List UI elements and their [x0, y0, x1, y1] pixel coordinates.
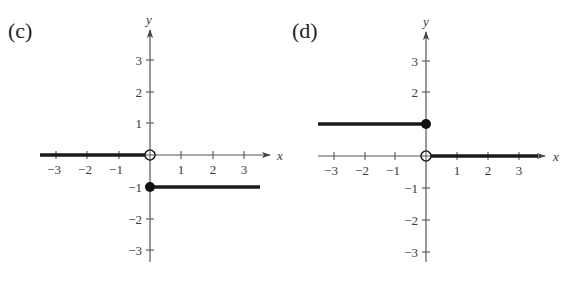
x-tick-labels-d: −3 −2 −1 1 2 3: [324, 163, 522, 178]
svg-text:−1: −1: [404, 181, 418, 196]
x-axis-name-c: x: [276, 148, 283, 163]
svg-text:−3: −3: [404, 245, 418, 260]
svg-text:1: 1: [178, 162, 185, 177]
svg-text:−2: −2: [78, 162, 92, 177]
svg-text:2: 2: [210, 162, 217, 177]
svg-text:−2: −2: [355, 163, 369, 178]
svg-text:3: 3: [136, 53, 143, 68]
svg-text:1: 1: [136, 116, 143, 131]
graph-d: (d) x y −3 −2 −1 1 2 3: [292, 14, 559, 262]
closed-dot-0-m1-c: [145, 182, 155, 192]
x-axis-name-d: x: [552, 149, 559, 164]
svg-text:−1: −1: [109, 162, 123, 177]
svg-text:−3: −3: [128, 243, 142, 258]
y-axis-name-d: y: [421, 14, 429, 29]
svg-text:−2: −2: [404, 213, 418, 228]
closed-dot-0-1-d: [421, 119, 431, 129]
svg-text:−3: −3: [324, 163, 338, 178]
svg-text:3: 3: [516, 163, 523, 178]
svg-text:−3: −3: [47, 162, 61, 177]
x-tick-labels-c: −3 −2 −1 1 2 3: [47, 162, 247, 177]
panel-label-d: (d): [292, 18, 318, 43]
svg-text:1: 1: [454, 163, 461, 178]
y-tick-labels-d: 3 2 −1 −2 −3: [404, 54, 418, 260]
svg-text:2: 2: [412, 85, 419, 100]
svg-text:−1: −1: [386, 163, 400, 178]
y-axis-name-c: y: [144, 12, 152, 27]
svg-text:−2: −2: [128, 212, 142, 227]
panel-label-c: (c): [8, 18, 32, 43]
figure: (c) x y −3 −2 −1 1 2 3: [0, 0, 577, 290]
svg-text:2: 2: [136, 85, 143, 100]
graph-c: (c) x y −3 −2 −1 1 2 3: [8, 12, 283, 262]
svg-text:3: 3: [412, 54, 419, 69]
svg-text:3: 3: [241, 162, 248, 177]
svg-text:2: 2: [485, 163, 492, 178]
svg-text:−1: −1: [128, 180, 142, 195]
